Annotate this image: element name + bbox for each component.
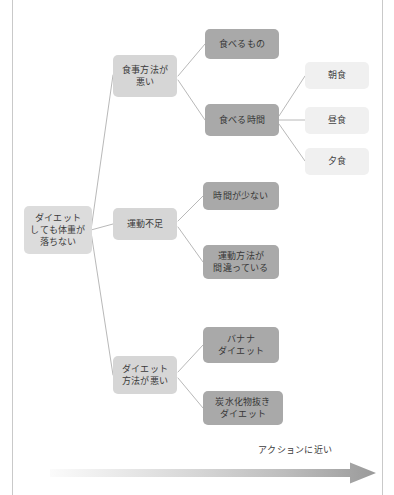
axis-arrow-icon (50, 462, 376, 484)
node-dinner[interactable]: 夕食 (305, 148, 369, 175)
link-root-to-meal-method (91, 75, 113, 230)
node-no-carb-diet[interactable]: 炭水化物抜き ダイエット (203, 391, 283, 425)
node-breakfast[interactable]: 朝食 (305, 62, 369, 89)
link-root-to-diet-method (91, 232, 113, 375)
node-little-time[interactable]: 時間が少ない (203, 182, 279, 210)
node-diet-method[interactable]: ダイエット 方法が悪い (113, 356, 177, 394)
page-frame-right-rule (382, 0, 383, 495)
diagram-canvas: ダイエット しても体重が 落ちない 食事方法が 悪い 運動不足 ダイエット 方法… (0, 0, 394, 495)
link-root-to-lack-exercise (91, 224, 113, 230)
node-lunch[interactable]: 昼食 (305, 107, 369, 134)
node-wrong-exercise[interactable]: 運動方法が 間違っている (203, 245, 279, 279)
link-meal-to-what-to-eat (178, 44, 205, 76)
node-root[interactable]: ダイエット しても体重が 落ちない (24, 206, 92, 254)
node-lack-exercise[interactable]: 運動不足 (113, 208, 177, 240)
node-meal-method[interactable]: 食事方法が 悪い (113, 55, 177, 97)
link-when-to-dinner (279, 124, 305, 161)
link-diet-to-no-carb (178, 378, 203, 408)
axis-caption: アクションに近い (258, 443, 332, 456)
link-exercise-to-little-time (178, 196, 203, 221)
node-when-to-eat[interactable]: 食べる時間 (205, 104, 279, 136)
link-diet-to-banana (178, 345, 203, 372)
node-banana-diet[interactable]: バナナ ダイエット (203, 327, 279, 363)
link-exercise-to-wrong-exercise (178, 227, 203, 262)
link-meal-to-when-to-eat (178, 80, 205, 120)
link-when-to-breakfast (279, 76, 305, 116)
node-what-to-eat[interactable]: 食べるもの (205, 29, 279, 59)
page-frame-left-rule (12, 0, 13, 495)
